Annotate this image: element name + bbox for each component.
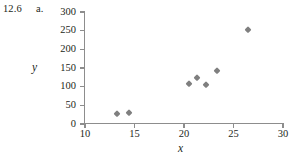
x-tick-label-20: 20 (171, 129, 197, 139)
data-point (202, 81, 210, 89)
y-tick-150 (80, 67, 84, 68)
y-tick-label-250: 250 (44, 25, 76, 35)
y-tick-250 (80, 30, 84, 31)
y-axis-title: y (32, 62, 37, 73)
y-tick-label-200: 200 (44, 44, 76, 54)
data-point (213, 67, 221, 75)
y-tick-50 (80, 105, 84, 106)
y-tick-label-300: 300 (44, 7, 76, 17)
data-point (193, 74, 201, 82)
y-tick-300 (80, 11, 84, 12)
y-tick-0 (80, 123, 84, 124)
data-point (125, 109, 133, 117)
y-tick-100 (80, 86, 84, 87)
data-point (185, 80, 193, 88)
y-axis-line (84, 11, 85, 124)
y-tick-label-50: 50 (44, 100, 76, 110)
x-axis-title: x (178, 143, 183, 154)
x-tick-label-25: 25 (221, 129, 247, 139)
y-tick-200 (80, 49, 84, 50)
figure-container: 12.6 a. 050100150200250300 1015202530 y … (0, 0, 292, 160)
data-point (113, 110, 121, 118)
data-point (245, 26, 253, 34)
y-tick-label-100: 100 (44, 81, 76, 91)
y-tick-label-0: 0 (44, 119, 76, 129)
x-tick-label-15: 15 (122, 129, 148, 139)
x-tick-label-10: 10 (72, 129, 98, 139)
x-tick-label-30: 30 (270, 129, 292, 139)
scatter-plot: 050100150200250300 1015202530 y x (0, 0, 292, 160)
y-tick-label-150: 150 (44, 63, 76, 73)
